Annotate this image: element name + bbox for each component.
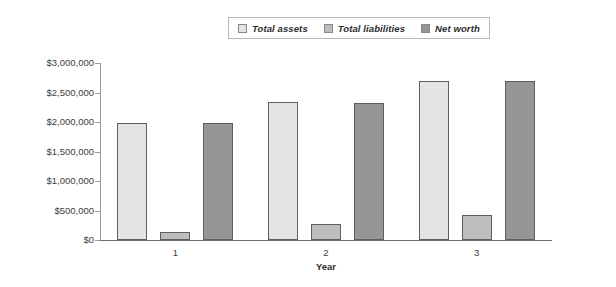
legend-label-net-worth: Net worth xyxy=(435,23,480,34)
y-axis-tick-mark xyxy=(95,181,100,182)
legend-swatch-total-liabilities xyxy=(324,24,333,33)
bar-net-worth xyxy=(505,81,535,240)
bar-total-assets xyxy=(117,123,147,240)
bar-total-assets xyxy=(419,81,449,240)
y-axis-tick-mark xyxy=(95,122,100,123)
y-axis-tick-label: $2,500,000 xyxy=(46,87,94,98)
bar-total-liabilities xyxy=(160,232,190,240)
y-axis-tick-label: $3,000,000 xyxy=(46,57,94,68)
legend-swatch-total-assets xyxy=(238,24,247,33)
plot-area: $3,000,000$2,500,000$2,000,000$1,500,000… xyxy=(100,63,552,240)
y-axis-tick-mark xyxy=(95,152,100,153)
y-axis-line xyxy=(100,63,101,240)
legend-item-total-liabilities: Total liabilities xyxy=(324,23,405,34)
x-axis-label: 3 xyxy=(401,247,552,258)
bar-chart: Total assets Total liabilities Net worth… xyxy=(0,0,616,287)
legend-item-total-assets: Total assets xyxy=(238,23,308,34)
bar-net-worth xyxy=(354,103,384,240)
x-axis-label: 1 xyxy=(100,247,251,258)
bar-group xyxy=(268,63,384,240)
y-axis-tick-label: $1,000,000 xyxy=(46,175,94,186)
y-axis-tick-mark xyxy=(95,211,100,212)
bar-group xyxy=(117,63,233,240)
legend-label-total-assets: Total assets xyxy=(252,23,308,34)
bar-total-liabilities xyxy=(311,224,341,240)
bar-total-liabilities xyxy=(462,215,492,240)
y-axis-tick-label: $2,000,000 xyxy=(46,116,94,127)
y-axis-tick-label: $1,500,000 xyxy=(46,146,94,157)
legend-label-total-liabilities: Total liabilities xyxy=(338,23,405,34)
y-axis-tick-mark xyxy=(95,63,100,64)
y-axis-tick-label: $500,000 xyxy=(54,205,94,216)
bar-net-worth xyxy=(203,123,233,240)
legend-swatch-net-worth xyxy=(421,24,430,33)
chart-legend: Total assets Total liabilities Net worth xyxy=(228,17,490,39)
bar-total-assets xyxy=(268,102,298,240)
y-axis-tick-label: $0 xyxy=(83,234,94,245)
legend-item-net-worth: Net worth xyxy=(421,23,480,34)
x-axis-label: 2 xyxy=(251,247,402,258)
bar-group xyxy=(419,63,535,240)
y-axis-tick-mark xyxy=(95,93,100,94)
y-axis-tick-mark xyxy=(95,240,100,241)
x-axis-line xyxy=(100,240,552,241)
x-axis-title: Year xyxy=(100,261,552,272)
